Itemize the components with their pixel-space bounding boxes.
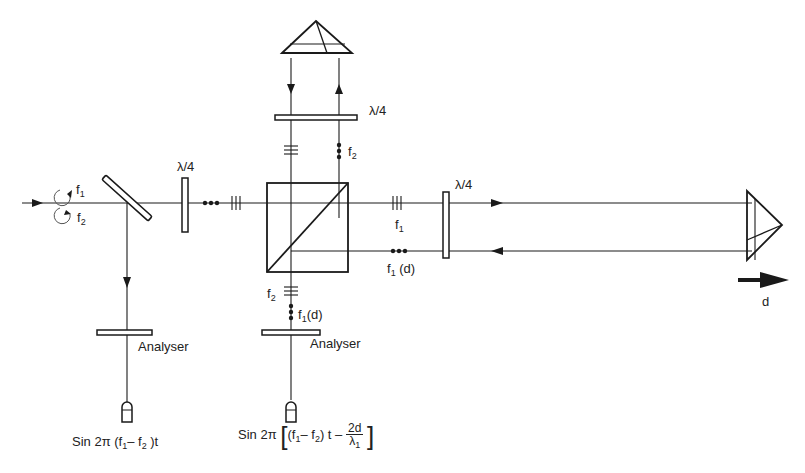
bottom-f2-label: f2 bbox=[267, 287, 276, 303]
right-arrow-icon bbox=[491, 199, 503, 207]
down-arrow-icon bbox=[287, 84, 295, 94]
right-quarter-wave-label: λ/4 bbox=[455, 178, 472, 191]
polarization-dots-icon bbox=[203, 201, 219, 205]
bottom-f1d-label: f1(d) bbox=[298, 308, 323, 324]
polarizing-beam-splitter-cube bbox=[267, 183, 348, 272]
photodetector-left-icon bbox=[122, 402, 132, 422]
analyser-left-label: Analyser bbox=[138, 340, 189, 353]
analyser-center bbox=[262, 330, 320, 335]
input-f1-label: f1 bbox=[76, 183, 85, 199]
quarter-wave-plate-left bbox=[182, 178, 188, 232]
right-f1d-label: f1 (d) bbox=[387, 262, 415, 278]
interferometer-diagram bbox=[0, 0, 805, 473]
input-arrow-icon bbox=[32, 199, 43, 207]
circular-polarization-icon bbox=[54, 190, 70, 224]
down-arrow-icon bbox=[123, 277, 131, 288]
quarter-wave-plate-right bbox=[443, 192, 449, 258]
photodetector-center-icon bbox=[286, 402, 296, 422]
analyser-center-label: Analyser bbox=[310, 337, 361, 350]
top-quarter-wave-label: λ/4 bbox=[369, 104, 386, 117]
input-f2-label: f2 bbox=[77, 211, 86, 227]
left-quarter-wave-label: λ/4 bbox=[177, 160, 194, 173]
right-f1-label: f1 bbox=[395, 218, 404, 234]
reference-retroreflector-prism bbox=[282, 21, 352, 53]
quarter-wave-plate-top bbox=[275, 115, 357, 120]
up-arrow-icon bbox=[335, 84, 343, 94]
measurement-retroreflector-prism bbox=[747, 191, 782, 260]
displacement-label: d bbox=[762, 295, 769, 308]
left-arrow-icon bbox=[491, 247, 503, 255]
displacement-arrow-icon bbox=[738, 272, 789, 288]
top-f2-label: f2 bbox=[348, 145, 357, 161]
measurement-output-formula: Sin 2π [(f1– f2) t – 2dλ1 ] bbox=[238, 422, 374, 450]
analyser-left bbox=[97, 330, 152, 335]
reference-output-formula: Sin 2π (f1– f2 )t bbox=[72, 435, 158, 451]
